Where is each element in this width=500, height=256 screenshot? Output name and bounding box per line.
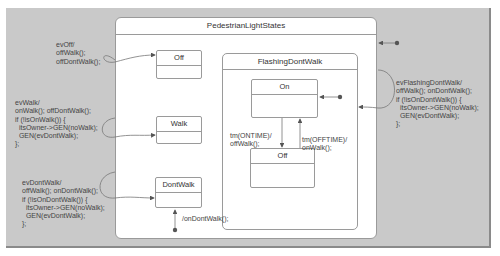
transition-label-evoff: evOff/ offWalk(); offDontWalk(); — [56, 41, 100, 66]
transition-label-offtime: tm(OFFTIME)/ onWalk(); — [302, 136, 347, 153]
initial-pseudostate — [338, 95, 342, 99]
transition-label-evdontwalk: evDontWalk/ offWalk(); onDontWalk(); if … — [22, 179, 105, 229]
transition-label-ontime: tm(ONTIME)/ offWalk(); — [230, 132, 272, 149]
initial-pseudostate — [395, 41, 399, 45]
initial-pseudostate — [173, 228, 177, 232]
transition-label-initial: /onDontWalk(); — [182, 215, 228, 223]
transition-label-evflashingdontwalk: evFlashingDontWalk/ offWalk(); onDontWal… — [396, 79, 479, 129]
transition-label-evwalk: evWalk/ onWalk(); offDontWalk(); if (!is… — [15, 99, 98, 149]
